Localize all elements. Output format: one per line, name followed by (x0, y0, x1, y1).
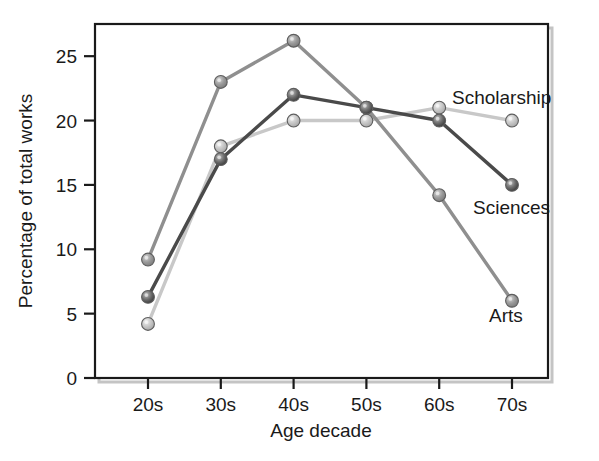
data-point (287, 34, 300, 47)
x-axis-tick-labels: 20s30s40s50s60s70s (133, 394, 528, 415)
data-point (433, 101, 446, 114)
line-chart-svg: 0510152025 20s30s40s50s60s70s Scholarshi… (0, 0, 599, 461)
y-axis-ticks (84, 56, 95, 378)
x-tick-label: 20s (133, 394, 164, 415)
data-point (214, 153, 227, 166)
series-label-scholarship: Scholarship (452, 87, 551, 108)
y-axis-tick-labels: 0510152025 (56, 46, 77, 389)
y-tick-label: 5 (66, 304, 77, 325)
y-tick-label: 20 (56, 111, 77, 132)
series-label-arts: Arts (489, 305, 523, 326)
series-label-sciences: Sciences (473, 197, 550, 218)
data-point (433, 189, 446, 202)
data-point (433, 114, 446, 127)
data-point (142, 291, 155, 304)
data-point (506, 179, 519, 192)
x-tick-label: 40s (278, 394, 309, 415)
data-point (506, 114, 519, 127)
x-axis-title: Age decade (270, 420, 371, 441)
y-tick-label: 0 (66, 368, 77, 389)
data-point (142, 253, 155, 266)
data-point (360, 114, 373, 127)
y-tick-label: 10 (56, 239, 77, 260)
data-point (287, 114, 300, 127)
y-tick-label: 25 (56, 46, 77, 67)
data-point (214, 140, 227, 153)
y-axis-title: Percentage of total works (15, 94, 36, 308)
x-tick-label: 50s (351, 394, 382, 415)
x-tick-label: 30s (205, 394, 236, 415)
chart-figure: 0510152025 20s30s40s50s60s70s Scholarshi… (0, 0, 599, 461)
data-point (287, 88, 300, 101)
x-tick-label: 70s (497, 394, 528, 415)
y-tick-label: 15 (56, 175, 77, 196)
data-point (214, 76, 227, 89)
data-point (360, 101, 373, 114)
data-point (142, 318, 155, 331)
x-tick-label: 60s (424, 394, 455, 415)
